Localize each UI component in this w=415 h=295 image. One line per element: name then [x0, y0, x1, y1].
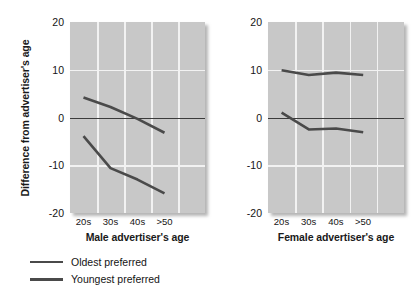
panel-female: 20 10 0 -10 -20 20s 30s 40s >50 Female a…	[268, 22, 404, 213]
x-axis-title-female: Female advertiser's age	[268, 231, 404, 243]
series-line-oldest-preferred	[84, 97, 165, 132]
y-tick-label: -20	[34, 208, 64, 218]
x-axis-title-male: Male advertiser's age	[70, 231, 205, 243]
series-lines-female	[268, 22, 404, 213]
legend-swatch-icon	[30, 261, 63, 263]
x-tick-label: >50	[148, 216, 182, 227]
y-tick-label: 10	[232, 65, 262, 75]
plot-area-male	[70, 22, 205, 213]
x-tick-label: >50	[346, 216, 380, 227]
legend-label: Youngest preferred	[71, 271, 160, 287]
series-line-youngest-preferred	[282, 113, 364, 133]
chart-figure: Difference from advertiser's age 20 10 0…	[0, 0, 415, 295]
y-tick-label: -20	[232, 208, 262, 218]
series-line-oldest-preferred	[282, 70, 364, 75]
series-line-youngest-preferred	[84, 136, 165, 193]
y-axis-title: Difference from advertiser's age	[18, 22, 32, 214]
y-tick-label: 0	[232, 113, 262, 123]
y-tick-label: 0	[34, 113, 64, 123]
legend-swatch-icon	[30, 278, 63, 281]
series-lines-male	[70, 22, 205, 213]
plot-area-female	[268, 22, 404, 213]
y-tick-label: 20	[232, 17, 262, 27]
legend-label: Oldest preferred	[71, 254, 147, 270]
y-tick-label: -10	[232, 160, 262, 170]
panel-male: 20 10 0 -10 -20 20s 30s 40s >50 Male adv…	[70, 22, 205, 213]
y-tick-label: 10	[34, 65, 64, 75]
y-tick-label: -10	[34, 160, 64, 170]
y-tick-label: 20	[34, 17, 64, 27]
